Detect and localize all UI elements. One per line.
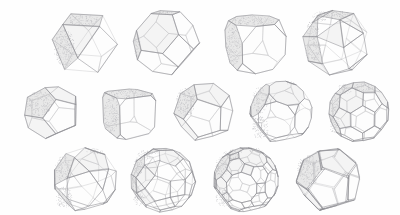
stipple-dot: [181, 103, 182, 104]
stipple-dot: [178, 111, 179, 112]
stipple-dot: [227, 164, 228, 165]
stipple-dot: [261, 112, 262, 113]
stipple-dot: [238, 57, 239, 58]
stipple-dot: [246, 23, 247, 24]
stipple-dot: [141, 172, 142, 173]
stipple-dot: [68, 201, 69, 202]
stipple-dot: [332, 96, 333, 97]
stipple-dot: [307, 170, 308, 171]
stipple-dot: [136, 172, 137, 173]
stipple-dot: [60, 180, 61, 181]
stipple-dot: [359, 89, 360, 90]
stipple-dot: [318, 32, 319, 33]
stipple-dot: [257, 126, 258, 127]
stipple-dot: [239, 20, 240, 21]
stipple-dot: [108, 125, 109, 126]
stipple-dot: [235, 154, 236, 155]
stipple-dot: [218, 203, 219, 204]
stipple-dot: [252, 100, 253, 101]
stipple-dot: [322, 20, 323, 21]
stipple-dot: [265, 109, 266, 110]
stipple-dot: [61, 38, 62, 39]
stipple-dot: [37, 105, 38, 106]
stipple-dot: [231, 60, 232, 61]
stipple-dot: [315, 175, 316, 176]
stipple-dot: [257, 134, 258, 135]
stipple-dot: [127, 93, 128, 94]
stipple-dot: [366, 84, 367, 85]
stipple-dot: [191, 96, 192, 97]
stipple-dot: [265, 99, 266, 100]
stipple-dot: [258, 24, 259, 25]
stipple-dot: [263, 19, 264, 20]
stipple-dot: [133, 93, 134, 94]
stipple-dot: [134, 178, 135, 179]
stipple-dot: [73, 46, 74, 47]
stipple-dot: [139, 155, 140, 156]
stipple-dot: [54, 49, 55, 50]
stipple-dot: [267, 133, 268, 134]
stipple-dot: [134, 194, 135, 195]
stipple-dot: [253, 128, 254, 129]
stipple-dot: [45, 96, 46, 97]
stipple-dot: [171, 14, 172, 15]
stipple-dot: [235, 22, 236, 23]
stipple-dot: [245, 21, 246, 22]
stipple-dot: [333, 108, 334, 109]
stipple-dot: [44, 99, 45, 100]
stipple-dot: [188, 107, 189, 108]
stipple-dot: [318, 176, 319, 177]
stipple-dot: [180, 97, 181, 98]
stipple-dot: [43, 109, 44, 110]
stipple-dot: [224, 200, 225, 201]
stipple-dot: [241, 20, 242, 21]
stipple-dot: [252, 23, 253, 24]
stipple-dot: [313, 54, 314, 55]
stipple-dot: [235, 49, 236, 50]
stipple-dot: [261, 21, 262, 22]
stipple-dot: [261, 118, 262, 119]
stipple-dot: [315, 58, 316, 59]
stipple-dot: [68, 44, 69, 45]
stipple-dot: [338, 123, 339, 124]
stipple-dot: [96, 19, 97, 20]
stipple-dot: [346, 87, 347, 88]
stipple-dot: [234, 38, 235, 39]
stipple-dot: [263, 104, 264, 105]
stipple-dot: [259, 99, 260, 100]
stipple-dot: [234, 59, 235, 60]
stipple-dot: [140, 165, 141, 166]
stipple-dot: [44, 102, 45, 103]
stipple-dot: [68, 55, 69, 56]
stipple-dot: [308, 53, 309, 54]
stipple-dot: [216, 162, 217, 163]
stipple-dot: [318, 54, 319, 55]
stipple-dot: [258, 102, 259, 103]
stipple-dot: [372, 87, 373, 88]
stipple-dot: [143, 165, 144, 166]
stipple-dot: [254, 20, 255, 21]
stipple-dot: [34, 99, 35, 100]
stipple-dot: [221, 171, 222, 172]
stipple-dot: [45, 92, 46, 93]
stipple-dot: [59, 63, 60, 64]
stipple-dot: [85, 23, 86, 24]
stipple-dot: [105, 107, 106, 108]
stipple-dot: [314, 173, 315, 174]
stipple-dot: [220, 162, 221, 163]
stipple-dot: [316, 47, 317, 48]
stipple-dot: [235, 45, 236, 46]
stipple-dot: [225, 162, 226, 163]
stipple-dot: [118, 93, 119, 94]
stipple-dot: [36, 102, 37, 103]
stipple-dot: [261, 138, 262, 139]
stipple-dot: [313, 161, 314, 162]
stipple-dot: [260, 133, 261, 134]
stipple-dot: [97, 149, 98, 150]
stipple-dot: [86, 16, 87, 17]
stipple-dot: [298, 165, 299, 166]
stipple-dot: [71, 46, 72, 47]
stipple-dot: [137, 198, 138, 199]
stipple-dot: [111, 116, 112, 117]
stipple-dot: [177, 108, 178, 109]
